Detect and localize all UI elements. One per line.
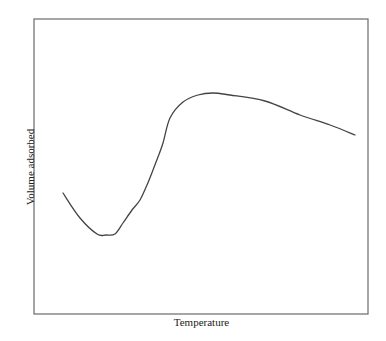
chart [0,0,386,341]
y-axis-label: Volume adsorbed [24,129,36,205]
x-axis-label: Temperature [34,316,369,328]
plot-frame [34,19,368,314]
data-line [63,93,355,236]
